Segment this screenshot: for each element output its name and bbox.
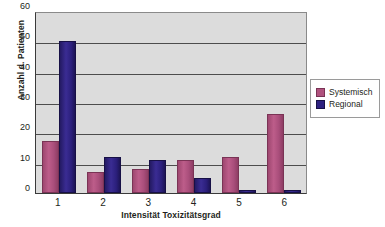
y-axis-tick-label: 10 (20, 153, 30, 162)
bar-groups (36, 13, 306, 193)
legend-swatch-icon (316, 88, 325, 97)
bar-systemisch-2 (87, 172, 104, 193)
y-axis-tick-label: 40 (20, 62, 30, 71)
x-axis-title: Intensität Toxizitätsgrad (35, 210, 307, 220)
y-axis-tick-label: 0 (25, 184, 30, 193)
y-axis-tick-label: 60 (20, 2, 30, 11)
bar-regional-6 (284, 190, 301, 193)
legend-item-label: Systemisch (329, 88, 372, 97)
bar-regional-5 (239, 190, 256, 193)
bar-group (87, 13, 121, 193)
bar-systemisch-5 (222, 157, 239, 193)
legend-swatch-icon (316, 100, 325, 109)
bar-systemisch-1 (42, 141, 59, 193)
legend-item-label: Regional (329, 100, 363, 109)
y-axis-tick-label: 20 (20, 123, 30, 132)
bar-chart: Anzahl d. Patienten 6050403020100 123456… (0, 0, 385, 227)
y-axis-tick-label: 30 (20, 93, 30, 102)
legend: SystemischRegional (310, 79, 380, 118)
bar-systemisch-3 (132, 169, 149, 193)
plot-area (35, 12, 307, 194)
y-axis-tick-label: 50 (20, 32, 30, 41)
bar-systemisch-4 (177, 160, 194, 193)
bar-group (267, 13, 301, 193)
bar-systemisch-6 (267, 114, 284, 193)
legend-item: Regional (316, 100, 375, 109)
bar-group (222, 13, 256, 193)
bar-group (42, 13, 76, 193)
bar-regional-4 (194, 178, 211, 193)
bar-group (132, 13, 166, 193)
bar-regional-1 (59, 41, 76, 193)
legend-item: Systemisch (316, 88, 375, 97)
y-axis-tick-labels: 6050403020100 (0, 6, 34, 200)
bar-regional-3 (149, 160, 166, 193)
bar-group (177, 13, 211, 193)
bar-regional-2 (104, 157, 121, 193)
